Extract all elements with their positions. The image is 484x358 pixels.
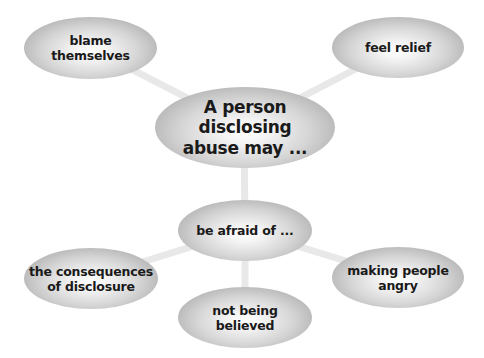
node-making-people-angry: making people angry — [332, 247, 464, 308]
node-text-line: not being — [212, 303, 278, 318]
node-not-being-believed: not being believed — [178, 287, 312, 348]
node-consequences-of-disclosure: the consequences of disclosure — [24, 248, 158, 309]
node-text-line: feel relief — [365, 40, 431, 55]
node-text-line: making people — [347, 263, 448, 278]
node-feel-relief: feel relief — [332, 17, 464, 78]
node-blame-themselves: blame themselves — [24, 17, 157, 79]
central-text-line: abuse may ... — [155, 138, 335, 158]
node-text-line: angry — [347, 278, 448, 293]
node-be-afraid-of: be afraid of ... — [178, 200, 312, 261]
node-central-topic: A person disclosing abuse may ... — [155, 87, 335, 168]
node-text-line: themselves — [51, 48, 130, 63]
node-text-line: the consequences — [29, 264, 153, 279]
node-text-line: blame — [51, 33, 130, 48]
node-text-line: of disclosure — [29, 279, 153, 294]
central-text-line: A person disclosing — [155, 97, 335, 138]
node-text-line: be afraid of ... — [196, 223, 293, 238]
node-text-line: believed — [212, 318, 278, 333]
